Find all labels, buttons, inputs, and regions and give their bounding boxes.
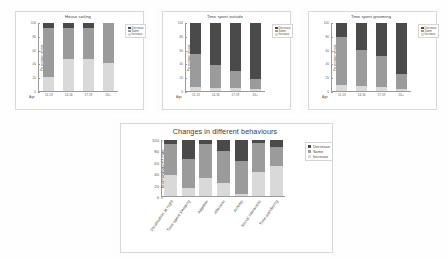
bar-segment-same (217, 151, 230, 183)
chart-panel-time-spent-grooming: Time spent grooming Percentage of cats A… (301, 6, 441, 114)
stacked-bar: Affection (217, 140, 230, 196)
stacked-bar: Time wandering (270, 140, 283, 196)
y-axis-tick: 80 (154, 149, 161, 154)
legend-swatch-increase (308, 155, 312, 158)
plot-area: Percentage of cats Age 11-1314-1617-1920… (38, 23, 118, 92)
y-axis-tick: 60 (326, 49, 331, 53)
y-axis-tick: 0 (327, 90, 331, 94)
y-axis-tick: 80 (180, 35, 185, 39)
y-axis-tick: 40 (33, 62, 38, 66)
y-tick-mark (38, 64, 40, 65)
stacked-bar: Social interaction (252, 140, 265, 196)
legend-swatch-decrease (275, 27, 278, 29)
bar-segment-same (270, 147, 283, 166)
y-tick-mark (161, 151, 163, 152)
y-tick-mark (161, 140, 163, 141)
bar-segment-same (210, 65, 221, 88)
y-tick-mark (331, 37, 333, 38)
bar-segment-decrease (396, 23, 407, 74)
legend-item-increase: Increase (275, 33, 291, 36)
y-axis-tick: 100 (152, 138, 161, 143)
legend-swatch-same (275, 30, 278, 32)
y-tick-mark (185, 92, 187, 93)
chart-title: Changes in different behaviours (113, 127, 337, 136)
bar-segment-increase (83, 59, 94, 91)
x-axis-tick: 17-19 (231, 91, 239, 97)
bar-segment-same (336, 37, 347, 85)
legend-swatch-increase (128, 33, 131, 35)
chart-panel-changes-in-different-behaviours: Changes in different behaviours Percenta… (113, 118, 337, 257)
y-axis-tick: 40 (326, 62, 331, 66)
plot-area: Percentage of cats Vocalisation at night… (161, 140, 285, 197)
bar-segment-decrease (182, 140, 195, 158)
y-axis-tick: 0 (34, 90, 38, 94)
chart-legend: DecreaseSameIncrease (418, 24, 439, 38)
x-axis-tick: 20+ (399, 91, 404, 97)
chart-legend: DecreaseSameIncrease (272, 24, 293, 38)
x-axis-label: Age (322, 95, 328, 99)
stacked-bar: 11-13 (43, 23, 54, 91)
legend-swatch-same (421, 30, 424, 32)
stacked-bar: 17-19 (83, 23, 94, 91)
legend-label-increase: Increase (279, 32, 290, 36)
y-tick-mark (331, 23, 333, 24)
y-tick-mark (331, 92, 333, 93)
y-tick-mark (185, 64, 187, 65)
legend-swatch-increase (421, 33, 424, 35)
x-axis-tick: 14-16 (65, 91, 73, 97)
bar-segment-increase (43, 77, 54, 91)
stacked-bar: 14-16 (356, 23, 367, 91)
y-axis-tick: 0 (157, 195, 161, 200)
stacked-bar: Time spent sleeping (182, 140, 195, 196)
bar-segment-decrease (376, 23, 387, 56)
x-axis-tick: 17-19 (377, 91, 385, 97)
x-axis-tick: 14-16 (212, 91, 220, 97)
legend-swatch-same (128, 30, 131, 32)
plot-area: Percentage of cats Age 11-1314-1617-1920… (331, 23, 411, 92)
y-axis-tick: 100 (31, 21, 38, 25)
legend-swatch-increase (275, 33, 278, 35)
stacked-bar: 11-13 (336, 23, 347, 91)
y-axis-tick: 20 (33, 76, 38, 80)
bar-group: Vocalisation at nightTime spent sleeping… (162, 140, 285, 196)
legend-item-increase: Increase (308, 154, 330, 159)
x-axis-tick: 14-16 (358, 91, 366, 97)
plot-area: Percentage of cats Age 11-1314-1617-1920… (185, 23, 265, 92)
x-axis-tick: 11-13 (45, 91, 53, 97)
bar-group: 11-1314-1617-1920+ (332, 23, 411, 91)
bar-segment-same (63, 28, 74, 59)
bar-segment-same (199, 144, 212, 178)
x-axis-tick: 11-13 (192, 91, 200, 97)
y-axis-tick: 20 (180, 76, 185, 80)
y-tick-mark (38, 92, 40, 93)
chart-title: Time spent grooming (301, 14, 441, 19)
legend-swatch-same (308, 150, 312, 153)
y-tick-mark (161, 197, 163, 198)
stacked-bar: 20+ (103, 23, 114, 91)
bar-segment-decrease (230, 23, 241, 71)
bar-segment-same (103, 23, 114, 63)
stacked-bar: 20+ (396, 23, 407, 91)
bar-segment-same (182, 159, 195, 189)
y-tick-mark (161, 163, 163, 164)
y-tick-mark (161, 174, 163, 175)
y-axis-tick: 20 (326, 76, 331, 80)
bar-segment-same (190, 54, 201, 87)
chart-legend: DecreaseSameIncrease (305, 142, 333, 161)
bar-segment-same (250, 79, 261, 89)
y-axis-tick: 20 (154, 183, 161, 188)
y-tick-mark (331, 51, 333, 52)
y-tick-mark (38, 51, 40, 52)
chart-title: Time spent outside (155, 14, 295, 19)
y-axis-tick: 100 (178, 21, 185, 25)
y-axis-tick: 40 (180, 62, 185, 66)
stacked-bar: Vocalisation at night (164, 140, 177, 196)
chart-legend: DecreaseSameIncrease (125, 24, 146, 38)
legend-label-increase: Increase (132, 32, 143, 36)
y-axis-tick: 100 (324, 21, 331, 25)
bar-segment-increase (103, 63, 114, 91)
stacked-bar: 14-16 (210, 23, 221, 91)
x-axis-tick: 17-19 (84, 91, 92, 97)
bar-segment-decrease (250, 23, 261, 79)
y-axis-tick: 60 (180, 49, 185, 53)
